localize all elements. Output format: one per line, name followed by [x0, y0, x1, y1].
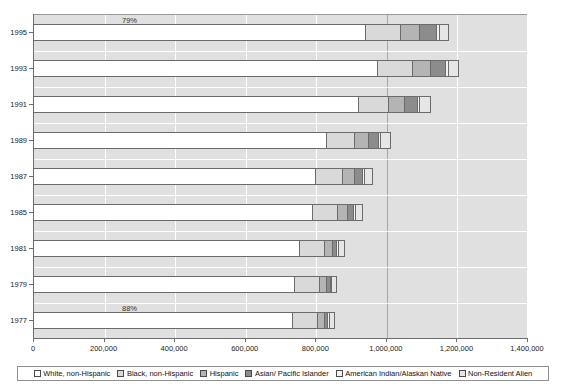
bar-segment[interactable] [34, 313, 293, 328]
y-tick-mark [29, 248, 33, 249]
bar-1987[interactable] [33, 168, 373, 185]
bar-segment[interactable] [449, 61, 459, 76]
band-separator [34, 195, 527, 196]
y-tick-mark [29, 284, 33, 285]
bar-segment[interactable] [34, 169, 316, 184]
bar-segment[interactable] [369, 133, 379, 148]
bar-segment[interactable] [320, 277, 327, 292]
bar-segment[interactable] [34, 277, 295, 292]
bar-segment[interactable] [327, 133, 355, 148]
legend-label: Hispanic [210, 369, 239, 378]
bar-segment[interactable] [343, 169, 355, 184]
bar-segment[interactable] [338, 205, 348, 220]
bar-segment[interactable] [365, 169, 374, 184]
legend-item-0[interactable]: White, non-Hispanic [34, 369, 111, 378]
legend-swatch-icon [200, 370, 207, 377]
x-tick-mark-400000 [174, 338, 175, 342]
bar-1989[interactable] [33, 132, 391, 149]
chart-title [0, 0, 566, 9]
bar-segment[interactable] [339, 241, 345, 256]
x-tick-label-0: 0 [31, 344, 35, 353]
x-tick-label-400000: 400,000 [161, 344, 188, 353]
y-tick-mark [29, 320, 33, 321]
legend-label: American Indian/Alaskan Native [345, 369, 451, 378]
bar-segment[interactable] [332, 277, 337, 292]
bar-segment[interactable] [295, 277, 320, 292]
y-tick-label-1979: 1979 [0, 280, 27, 289]
x-tick-mark-600000 [245, 338, 246, 342]
legend-item-1[interactable]: Black, non-Hispanic [117, 369, 193, 378]
bar-segment[interactable] [34, 133, 327, 148]
legend-swatch-icon [34, 370, 41, 377]
bar-1981[interactable] [33, 240, 345, 257]
x-tick-label-600000: 600,000 [231, 344, 258, 353]
bar-segment[interactable] [420, 25, 437, 40]
data-label-79pct: 79% [122, 16, 137, 25]
bar-1991[interactable] [33, 96, 431, 113]
x-tick-label-800000: 800,000 [302, 344, 329, 353]
x-tick-label-200000: 200,000 [90, 344, 117, 353]
bar-segment[interactable] [34, 241, 300, 256]
y-tick-label-1989: 1989 [0, 136, 27, 145]
y-tick-mark [29, 176, 33, 177]
x-tick-mark-800000 [315, 338, 316, 342]
bar-segment[interactable] [401, 25, 420, 40]
y-tick-label-1981: 1981 [0, 244, 27, 253]
y-tick-mark [29, 212, 33, 213]
bar-segment[interactable] [355, 169, 363, 184]
legend-swatch-icon [336, 370, 343, 377]
bar-1977[interactable] [33, 312, 335, 329]
bar-1995[interactable] [33, 24, 449, 41]
bar-segment[interactable] [378, 61, 413, 76]
bar-1993[interactable] [33, 60, 459, 77]
band-separator [34, 123, 527, 124]
bar-segment[interactable] [300, 241, 325, 256]
legend-item-3[interactable]: Asian/ Pacific Islander [245, 369, 328, 378]
bar-segment[interactable] [359, 97, 389, 112]
band-separator [34, 303, 527, 304]
y-tick-label-1995: 1995 [0, 28, 27, 37]
x-tick-label-1000000: 1,000,000 [369, 344, 402, 353]
band-separator [34, 159, 527, 160]
band-separator [34, 87, 527, 88]
legend-item-5[interactable]: Non-Resident Alien [459, 369, 533, 378]
bar-segment[interactable] [34, 25, 366, 40]
y-tick-label-1987: 1987 [0, 172, 27, 181]
data-label-88pct: 88% [122, 304, 137, 313]
chart-container: 79%88% 0200,000400,000600,000800,0001,00… [0, 0, 566, 390]
bar-segment[interactable] [34, 205, 313, 220]
bar-segment[interactable] [405, 97, 418, 112]
bar-segment[interactable] [34, 97, 359, 112]
bar-segment[interactable] [381, 133, 391, 148]
bar-segment[interactable] [316, 169, 343, 184]
x-tick-mark-200000 [104, 338, 105, 342]
bar-segment[interactable] [389, 97, 406, 112]
legend-item-2[interactable]: Hispanic [200, 369, 238, 378]
x-tick-label-1200000: 1,200,000 [440, 344, 473, 353]
legend-swatch-icon [459, 370, 466, 377]
x-tick-mark-0 [33, 338, 34, 342]
bar-segment[interactable] [313, 205, 338, 220]
legend-swatch-icon [245, 370, 252, 377]
y-tick-mark [29, 140, 33, 141]
bar-segment[interactable] [293, 313, 318, 328]
bar-segment[interactable] [431, 61, 447, 76]
bar-segment[interactable] [325, 241, 333, 256]
bar-segment[interactable] [420, 97, 431, 112]
bar-segment[interactable] [330, 313, 335, 328]
bar-1985[interactable] [33, 204, 363, 221]
bar-segment[interactable] [440, 25, 449, 40]
band-separator [34, 267, 527, 268]
bar-segment[interactable] [355, 133, 369, 148]
legend-item-4[interactable]: American Indian/Alaskan Native [336, 369, 452, 378]
y-tick-mark [29, 32, 33, 33]
bar-segment[interactable] [366, 25, 401, 40]
gridline-1400000 [528, 15, 529, 338]
y-tick-mark [29, 104, 33, 105]
x-axis-line [33, 338, 527, 339]
bar-1979[interactable] [33, 276, 337, 293]
band-separator [34, 51, 527, 52]
bar-segment[interactable] [356, 205, 364, 220]
bar-segment[interactable] [34, 61, 378, 76]
bar-segment[interactable] [413, 61, 431, 76]
